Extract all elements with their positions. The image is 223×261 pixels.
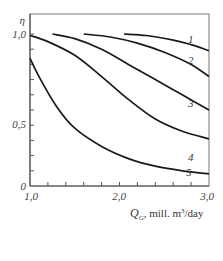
x-tick-label-3: 3,0	[199, 190, 214, 202]
y-tick-label-05: 0,5	[12, 118, 26, 130]
curve-label-4: 4	[188, 151, 194, 163]
curve-label-1: 1	[188, 33, 194, 45]
efficiency-chart: η 1,0 0,5 0 1,0 2,0 3,0 QG, mill. m3/day…	[0, 0, 223, 261]
y-axis-symbol: η	[20, 14, 25, 26]
x-axis-title: QG, mill. m3/day	[130, 206, 204, 222]
x-tick-label-2: 2,0	[112, 190, 126, 202]
x-tick-label-1: 1,0	[24, 190, 38, 202]
curves	[30, 34, 209, 174]
curve-label-5-visible: 5	[186, 166, 192, 178]
curve-4	[30, 36, 209, 139]
y-tick-label-1: 1,0	[12, 28, 26, 40]
axis-ticks	[30, 34, 191, 186]
curve-3	[52, 34, 209, 110]
curve-5	[30, 58, 209, 174]
plot-frame	[30, 14, 209, 186]
curve-label-2: 2	[188, 54, 194, 66]
curve-label-3: 3	[187, 97, 194, 109]
